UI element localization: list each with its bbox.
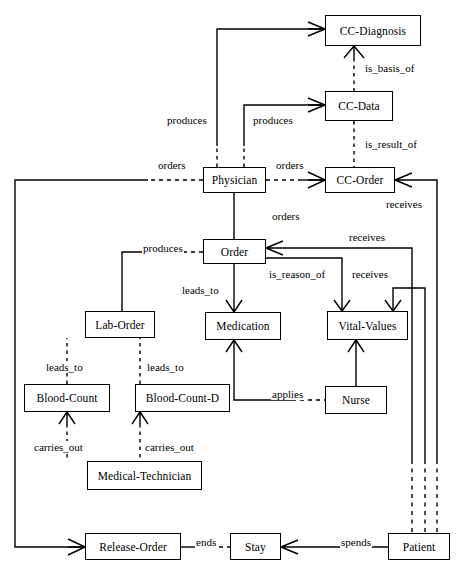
node-label: Stay — [245, 541, 266, 553]
crowfoot-medication-bottom — [226, 340, 242, 352]
edge-label-is-result-of: is_result_of — [364, 138, 418, 150]
er-diagram-canvas: CC-Diagnosis CC-Data CC-Order Physician … — [0, 0, 460, 580]
node-vital-values[interactable]: Vital-Values — [327, 311, 408, 340]
node-label: Lab-Order — [95, 319, 144, 331]
node-label: CC-Order — [337, 174, 384, 186]
node-label: Blood-Count-D — [146, 392, 220, 404]
node-label: Order — [221, 246, 248, 258]
edge-label-carries-out-right: carries_out — [144, 441, 195, 453]
edge-label-spends: spends — [340, 536, 372, 548]
crowfoot-cc-diagnosis-left — [308, 22, 325, 36]
edge-label-produces-lab-order: produces — [142, 242, 184, 254]
node-cc-diagnosis[interactable]: CC-Diagnosis — [325, 15, 421, 46]
edge-label-receives-cc-order: receives — [385, 198, 423, 210]
edge-label-ends: ends — [195, 536, 217, 548]
node-label: Blood-Count — [36, 392, 97, 404]
node-medical-technician[interactable]: Medical-Technician — [87, 461, 202, 490]
node-release-order[interactable]: Release-Order — [85, 533, 181, 560]
edge-label-receives-order: receives — [348, 231, 386, 243]
edge-label-produces-cc-data: produces — [252, 114, 294, 126]
edge-label-carries-out-left: carries_out — [33, 441, 84, 453]
node-blood-count-d[interactable]: Blood-Count-D — [135, 384, 230, 412]
crowfoot-vital-left-top — [334, 300, 350, 311]
node-lab-order[interactable]: Lab-Order — [85, 311, 155, 338]
node-physician[interactable]: Physician — [203, 167, 266, 193]
crowfoot-blood-count-d-bottom — [132, 412, 148, 424]
node-medication[interactable]: Medication — [205, 312, 281, 340]
node-cc-order[interactable]: CC-Order — [325, 167, 395, 193]
node-order[interactable]: Order — [203, 239, 266, 264]
node-label: Vital-Values — [339, 320, 397, 332]
crowfoot-release-order-left — [68, 539, 85, 555]
crowfoot-blood-count-bottom — [59, 412, 75, 424]
crowfoot-cc-order-left — [308, 172, 325, 188]
diagram-edges-layer — [0, 0, 460, 580]
node-patient[interactable]: Patient — [388, 533, 450, 560]
node-label: Medication — [216, 320, 269, 332]
crowfoot-vital-right-top — [385, 300, 401, 311]
edge-label-orders-left: orders — [157, 159, 187, 171]
node-label: Physician — [212, 174, 258, 186]
node-stay[interactable]: Stay — [230, 533, 281, 560]
edge-label-orders-right: orders — [275, 159, 305, 171]
edge-label-leads-to-medication: leads_to — [181, 284, 220, 296]
edge-label-receives-vital: receives — [351, 268, 389, 280]
node-label: Patient — [403, 541, 436, 553]
node-label: Medical-Technician — [98, 470, 192, 482]
node-nurse[interactable]: Nurse — [325, 386, 387, 414]
crowfoot-vital-bottom — [348, 340, 364, 352]
edge-produces-lab-order-b — [122, 252, 170, 311]
crowfoot-cc-order-right — [395, 173, 412, 187]
edge-produces-cc-diagnosis-b — [217, 29, 322, 146]
crowfoot-cc-diagnosis-bottom — [344, 46, 364, 58]
edge-label-produces-cc-diagnosis: produces — [166, 114, 208, 126]
edge-label-leads-to-blood-count: leads_to — [45, 361, 84, 373]
crowfoot-cc-data-left — [308, 98, 325, 112]
edge-label-orders-down: orders — [271, 210, 301, 222]
edge-label-leads-to-blood-count-d: leads_to — [146, 361, 185, 373]
edge-label-is-reason-of: is_reason_of — [268, 268, 326, 280]
node-cc-data[interactable]: CC-Data — [325, 91, 393, 121]
edge-label-applies: applies — [271, 388, 304, 400]
node-blood-count[interactable]: Blood-Count — [24, 384, 110, 412]
crowfoot-stay-right — [281, 540, 298, 554]
node-label: Release-Order — [99, 541, 167, 553]
node-label: CC-Diagnosis — [340, 25, 406, 37]
node-label: Nurse — [342, 394, 370, 406]
crowfoot-order-right — [266, 241, 283, 255]
crowfoot-medication-top — [226, 300, 242, 312]
edge-label-is-basis-of: is_basis_of — [364, 62, 416, 74]
node-label: CC-Data — [338, 100, 380, 112]
